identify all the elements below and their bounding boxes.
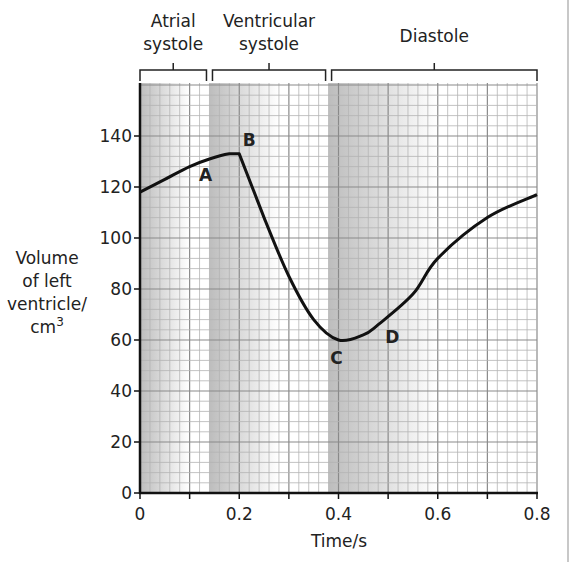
x-tick-label: 0.6 [424,504,451,524]
x-tick-label: 0 [135,504,146,524]
x-tick-label: 0.4 [325,504,352,524]
svg-text:cm3: cm3 [30,315,64,337]
y-tick-label: 40 [110,381,132,401]
y-tick-label: 80 [110,279,132,299]
x-axis-label: Time/s [310,531,367,551]
y-axis-label: Volumeof leftventricle/cm3 [7,248,87,337]
point-label-b: B [243,130,256,150]
phase-label: Diastole [400,26,469,46]
phase-brackets: AtrialsystoleVentricularsystoleDiastole [140,11,537,81]
x-tick-label: 0.8 [523,504,550,524]
volume-time-chart: 02040608010012014000.20.40.60.8 Atrialsy… [0,0,571,562]
svg-text:Volume: Volume [15,248,78,268]
phase-label: Ventricular [223,11,315,31]
y-tick-label: 140 [100,126,132,146]
phase-label: Atrial [151,11,196,31]
point-label-c: C [330,348,342,368]
svg-text:ventricle/: ventricle/ [7,294,87,314]
y-tick-label: 60 [110,330,132,350]
phase-bracket [212,70,325,81]
y-tick-label: 20 [110,432,132,452]
phase-bracket [332,70,537,81]
point-label-d: D [385,327,399,347]
y-tick-label: 120 [100,177,132,197]
y-tick-label: 100 [100,228,132,248]
y-tick-label: 0 [121,483,132,503]
phase-bracket [140,70,206,81]
grid [140,83,537,493]
phase-label: systole [143,34,203,54]
x-tick-label: 0.2 [226,504,253,524]
point-label-a: A [199,165,213,185]
phase-label: systole [239,34,299,54]
svg-text:of left: of left [22,271,72,291]
